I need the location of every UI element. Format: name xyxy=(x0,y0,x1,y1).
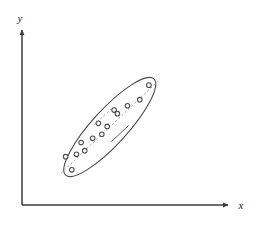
minor-axis-tick-lower-line xyxy=(111,126,128,142)
data-point xyxy=(90,136,95,141)
data-point xyxy=(79,140,84,145)
data-point xyxy=(125,103,130,108)
data-point xyxy=(74,152,79,157)
data-point xyxy=(115,111,120,116)
data-point xyxy=(137,97,142,102)
data-point xyxy=(82,148,87,153)
data-point xyxy=(105,124,110,129)
data-point xyxy=(147,83,152,88)
axes: y x xyxy=(17,12,244,211)
scatter-plot-figure: y x xyxy=(0,0,258,229)
data-point xyxy=(63,154,68,159)
data-point xyxy=(96,121,101,126)
data-point-layer xyxy=(63,83,151,172)
x-axis-label: x xyxy=(238,199,244,211)
figure-canvas: y x xyxy=(0,0,258,229)
data-point xyxy=(100,132,105,137)
y-axis-label: y xyxy=(17,12,23,24)
data-point xyxy=(70,168,75,173)
